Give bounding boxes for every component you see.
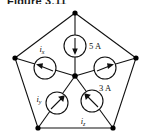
- label-5a: 5 A: [89, 41, 102, 51]
- label-3a: 3 A: [99, 83, 112, 93]
- meter-lower-left: iy: [36, 92, 68, 114]
- circuit-diagram: 5 A ix 3 A iy iz: [0, 0, 143, 139]
- meter-lower-right: iz: [81, 90, 103, 127]
- meter-left: ix: [34, 44, 56, 79]
- meter-top: 5 A: [64, 35, 102, 57]
- node-left: [12, 55, 17, 60]
- label-ix: ix: [39, 44, 44, 55]
- node-center: [72, 73, 78, 79]
- label-iz: iz: [81, 116, 86, 127]
- label-iy: iy: [36, 94, 41, 105]
- figure-container: Figure 3.11 5 A ix 3 A: [0, 0, 143, 139]
- node-top: [72, 10, 77, 15]
- spokes-group: [15, 13, 136, 128]
- meter-right: 3 A: [94, 57, 116, 93]
- node-bottom-right: [110, 125, 115, 130]
- node-right: [133, 55, 138, 60]
- node-bottom-left: [35, 125, 40, 130]
